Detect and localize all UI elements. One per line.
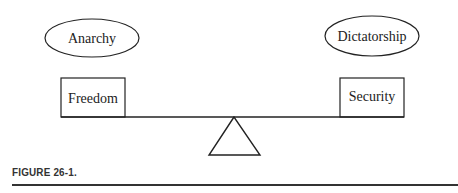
figure-caption: FIGURE 26-1. — [12, 166, 77, 178]
fulcrum-triangle — [209, 117, 260, 155]
dictatorship-label: Dictatorship — [337, 29, 406, 44]
freedom-label: Freedom — [68, 91, 118, 106]
security-label: Security — [349, 89, 396, 104]
anarchy-label: Anarchy — [68, 31, 116, 46]
seesaw-diagram: Anarchy Dictatorship Freedom Security — [0, 0, 458, 193]
caption-rule — [12, 184, 458, 186]
